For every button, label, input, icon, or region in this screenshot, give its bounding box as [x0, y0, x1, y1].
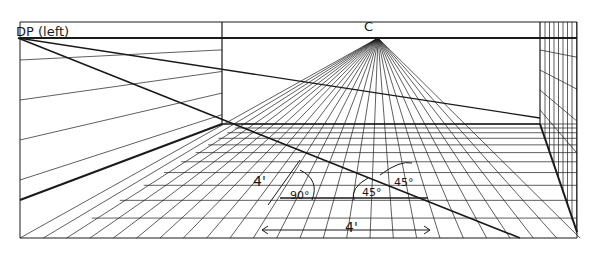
floor-grid [20, 124, 577, 238]
distance-point-label: DP (left) [16, 24, 69, 39]
right-angle-label: 90° [290, 189, 310, 202]
perspective-drawing: DP (left) C 4' 4' 90° 45° 45° [0, 0, 599, 256]
left-wall-lines [20, 50, 222, 180]
width-measure-label: 4' [345, 219, 358, 235]
outer-angle-label: 45° [394, 176, 414, 189]
inner-angle-label: 45° [362, 186, 382, 199]
construction-lines [18, 22, 577, 238]
depth-measure-label: 4' [253, 173, 266, 189]
vanishing-point-label: C [364, 19, 373, 34]
